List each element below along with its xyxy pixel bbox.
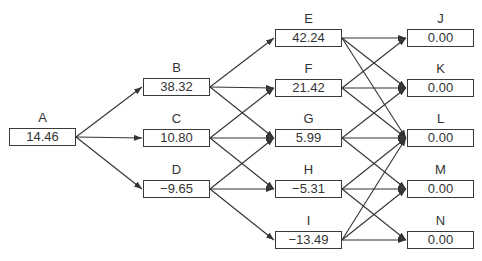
node-value-box: 21.42 xyxy=(275,79,342,97)
node-label: K xyxy=(407,62,474,76)
node-label: E xyxy=(275,12,342,26)
node-value-box: 0.00 xyxy=(407,231,474,249)
node-label: J xyxy=(407,12,474,26)
edge-b-f xyxy=(210,87,274,88)
node-value-box: −5.31 xyxy=(275,180,342,198)
node-value-box: 5.99 xyxy=(275,129,342,147)
node-label: H xyxy=(275,163,342,177)
node-label: C xyxy=(143,112,210,126)
edge-a-d xyxy=(76,137,142,189)
node-value-box: 14.46 xyxy=(9,128,76,146)
node-label: A xyxy=(9,111,76,125)
node-value-box: −9.65 xyxy=(143,180,210,198)
edge-b-e xyxy=(210,38,274,87)
node-value-box: 10.80 xyxy=(143,129,210,147)
node-label: F xyxy=(275,62,342,76)
node-value-box: 42.24 xyxy=(275,29,342,47)
node-value-box: 0.00 xyxy=(407,29,474,47)
node-value-box: −13.49 xyxy=(275,231,342,249)
node-label: G xyxy=(275,112,342,126)
node-label: N xyxy=(407,214,474,228)
node-label: B xyxy=(143,61,210,75)
edge-a-c xyxy=(76,137,142,138)
edge-d-i xyxy=(210,189,274,240)
node-value-box: 0.00 xyxy=(407,79,474,97)
node-value-box: 0.00 xyxy=(407,180,474,198)
edge-a-b xyxy=(76,87,142,137)
node-value-box: 38.32 xyxy=(143,78,210,96)
node-label: M xyxy=(407,163,474,177)
node-label: I xyxy=(275,214,342,228)
node-label: D xyxy=(143,163,210,177)
node-label: L xyxy=(407,112,474,126)
node-value-box: 0.00 xyxy=(407,129,474,147)
